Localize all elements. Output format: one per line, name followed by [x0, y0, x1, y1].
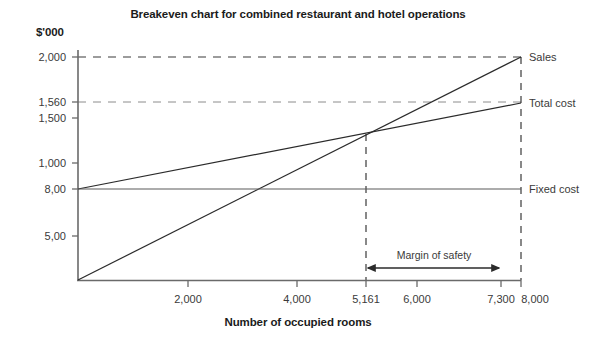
y-tick-label-1500: 1,500 [38, 112, 66, 124]
y-axis-ticks [72, 57, 78, 236]
chart-plot-area: 2,000 1,560 1,500 1,000 8,00 5,00 2,000 … [0, 0, 596, 343]
series-label-total-cost: Total cost [529, 97, 575, 109]
x-tick-label-6000: 6,000 [403, 293, 431, 305]
x-tick-label-2000: 2,000 [174, 293, 202, 305]
x-tick-label-8000: 8,000 [521, 293, 549, 305]
series-label-sales: Sales [529, 51, 557, 63]
series-line-total-cost [78, 103, 521, 189]
series-label-fixed-cost: Fixed cost [529, 183, 579, 195]
y-tick-label-500: 5,00 [45, 230, 66, 242]
y-tick-label-800: 8,00 [45, 183, 66, 195]
breakeven-chart-figure: Breakeven chart for combined restaurant … [0, 0, 596, 343]
margin-of-safety-label: Margin of safety [397, 249, 472, 261]
x-tick-label-4000: 4,000 [283, 293, 311, 305]
x-tick-label-7300: 7,300 [487, 293, 515, 305]
y-tick-label-2000: 2,000 [38, 51, 66, 63]
y-tick-label-1000: 1,000 [38, 157, 66, 169]
series-line-sales [78, 57, 521, 280]
y-tick-label-1560: 1,560 [38, 96, 66, 108]
x-tick-label-5161: 5,161 [352, 293, 380, 305]
